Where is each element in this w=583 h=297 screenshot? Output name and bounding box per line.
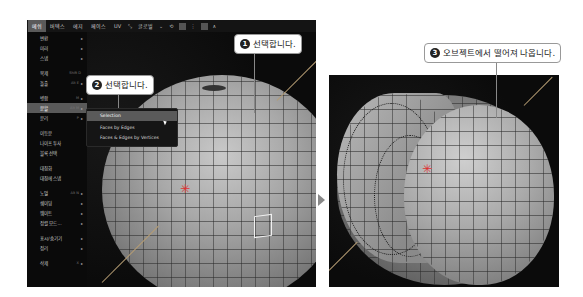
- menu-mesh[interactable]: 메쉬: [28, 20, 46, 32]
- chevron-right-icon: ▸: [81, 56, 87, 61]
- menu-item-snap[interactable]: 스냅▸: [27, 53, 87, 63]
- mesh-dropdown-menu: 변환▸ 미러▸ 스냅▸ 복제Shift D 돌출Alt E▸ 병합M▸ 분할Al…: [27, 32, 87, 287]
- menu-item-snap-to-symmetry[interactable]: 대칭에 스냅: [27, 173, 87, 183]
- falloff-icon[interactable]: ∧: [210, 20, 220, 32]
- chevron-right-icon: ▸: [81, 221, 87, 226]
- callout-leader-line: [496, 63, 497, 118]
- menu-item-normals[interactable]: 노멀Alt N▸: [27, 188, 87, 198]
- callout-step-3: 3 오브젝트에서 떨어져 나옵니다.: [424, 43, 561, 63]
- menu-item-weights[interactable]: 웨이트▸: [27, 208, 87, 218]
- callout-text: 오브젝트에서 떨어져 나옵니다.: [443, 47, 555, 59]
- object-origin-icon: ✳: [422, 163, 432, 175]
- callout-leader-line: [118, 94, 119, 108]
- left-viewport-panel: 메쉬 버텍스 에지 페이스 UV ⤡ 글로벌 ⌄ ⟲ ⋮ ∧ ✳ 변환▸ 미러▸…: [27, 20, 316, 287]
- menu-item-convex-hull[interactable]: 블록 선택: [27, 148, 87, 158]
- menu-item-transform[interactable]: 변환▸: [27, 33, 87, 43]
- callout-step-1: 1 선택합니다.: [234, 34, 302, 54]
- next-step-arrow-icon: [318, 194, 325, 206]
- menu-item-clean-up[interactable]: 정리▸: [27, 243, 87, 253]
- menu-item-bisect[interactable]: 이등분: [27, 128, 87, 138]
- pivot-point-icon[interactable]: ⟲: [166, 20, 176, 32]
- chevron-right-icon: ▸: [81, 236, 87, 241]
- menu-item-mirror[interactable]: 미러▸: [27, 43, 87, 53]
- uv-sphere-mesh[interactable]: ✳: [102, 75, 316, 287]
- step-number-badge: 3: [430, 48, 440, 58]
- selected-face[interactable]: [254, 214, 272, 239]
- chevron-right-icon: ▸: [81, 36, 87, 41]
- menu-item-extrude[interactable]: 돌출Alt E▸: [27, 78, 87, 88]
- snap-options-icon[interactable]: ⋮: [188, 20, 199, 32]
- callout-step-2: 2 선택합니다.: [86, 75, 154, 95]
- menu-edge[interactable]: 에지: [69, 20, 87, 32]
- menu-vertex[interactable]: 버텍스: [46, 20, 69, 32]
- chevron-right-icon: ▸: [81, 96, 87, 101]
- header-menubar: 메쉬 버텍스 에지 페이스 UV ⤡ 글로벌 ⌄ ⟲ ⋮ ∧: [27, 20, 316, 32]
- callout-text: 선택합니다.: [105, 79, 148, 91]
- menu-item-show-hide[interactable]: 표시/숨기기▸: [27, 233, 87, 243]
- submenu-item-faces-edges-by-vertices[interactable]: Faces & Edges by Vertices: [87, 133, 177, 143]
- menu-item-delete[interactable]: 삭제X▸: [27, 258, 87, 268]
- snap-toggle-icon[interactable]: [179, 23, 186, 30]
- callout-leader-line: [254, 53, 255, 113]
- menu-face[interactable]: 페이스: [87, 20, 110, 32]
- submenu-item-faces-by-edges[interactable]: Faces by Edges: [87, 123, 177, 133]
- step-number-badge: 1: [240, 39, 250, 49]
- menu-item-duplicate[interactable]: 복제Shift D: [27, 68, 87, 78]
- chevron-down-icon[interactable]: ⌄: [156, 20, 166, 32]
- menu-item-merge[interactable]: 병합M▸: [27, 93, 87, 103]
- menu-item-sort-elements[interactable]: 정렬 모드...▸: [27, 218, 87, 228]
- callout-text: 선택합니다.: [253, 38, 296, 50]
- top-pole: [202, 85, 226, 91]
- chevron-right-icon: ▸: [81, 46, 87, 51]
- chevron-right-icon: ▸: [81, 261, 87, 266]
- menu-item-split[interactable]: 분할Alt M▸: [27, 103, 87, 113]
- step-number-badge: 2: [92, 80, 102, 90]
- transform-orientation-icon[interactable]: ⤡: [125, 20, 135, 32]
- chevron-right-icon: ▸: [81, 201, 87, 206]
- menu-item-knife-project[interactable]: 나이프 투사: [27, 138, 87, 148]
- object-origin-icon: ✳: [180, 183, 190, 195]
- chevron-right-icon: ▸: [81, 191, 87, 196]
- uv-sphere-mesh-remaining[interactable]: [404, 105, 554, 285]
- split-submenu: Selection Faces by Edges Faces & Edges b…: [86, 108, 178, 147]
- transform-orientation-dropdown[interactable]: 글로벌: [135, 20, 156, 32]
- menu-item-separate[interactable]: 분리P▸: [27, 113, 87, 123]
- chevron-right-icon: ▸: [81, 246, 87, 251]
- proportional-edit-icon[interactable]: [201, 23, 208, 30]
- menu-item-symmetrize[interactable]: 대칭화: [27, 163, 87, 173]
- chevron-right-icon: ▸: [81, 211, 87, 216]
- menu-item-shading[interactable]: 쉐이딩▸: [27, 198, 87, 208]
- menu-uv[interactable]: UV: [110, 20, 125, 32]
- right-viewport-panel: ✳: [329, 75, 559, 287]
